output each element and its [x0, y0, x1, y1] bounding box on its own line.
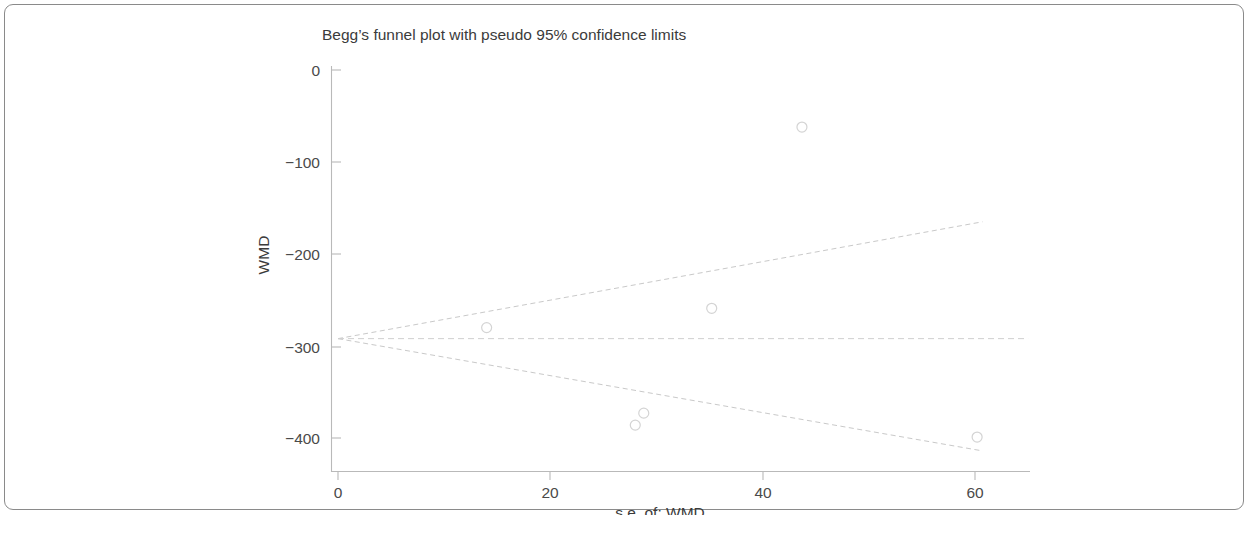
chart-title: Begg’s funnel plot with pseudo 95% confi… — [322, 26, 686, 43]
x-tick-label-60: 60 — [966, 484, 984, 501]
data-point-4 — [630, 420, 640, 430]
figure-caption-bar: Fig. 12 Begg’s test for total blood loss — [0, 515, 1250, 558]
x-tick-label-0: 0 — [334, 484, 343, 501]
plot-geometry-group — [338, 122, 1028, 451]
y-tick-label-minus400: −400 — [285, 430, 320, 447]
data-point-0 — [797, 122, 807, 132]
x-axis-title: s.e. of: WMD — [615, 504, 705, 515]
y-tick-label-minus200: −200 — [285, 246, 320, 263]
data-point-1 — [707, 303, 717, 313]
y-tick-label-minus300: −300 — [285, 339, 320, 356]
figure-container: Begg’s funnel plot with pseudo 95% confi… — [0, 0, 1250, 558]
y-tick-label-minus100: −100 — [285, 154, 320, 171]
data-point-2 — [482, 323, 492, 333]
data-point-5 — [972, 432, 982, 442]
pseudo-ci-upper-line — [338, 222, 982, 339]
data-point-3 — [639, 408, 649, 418]
pseudo-ci-lower-line — [338, 339, 982, 451]
y-axis-title: WMD — [255, 236, 272, 275]
y-axis-ticks — [332, 70, 342, 438]
x-axis-ticks — [338, 472, 975, 481]
x-tick-label-40: 40 — [754, 484, 772, 501]
funnel-plot-chart: Begg’s funnel plot with pseudo 95% confi… — [0, 0, 1250, 515]
x-tick-label-20: 20 — [541, 484, 559, 501]
y-tick-label-0: 0 — [311, 62, 320, 79]
